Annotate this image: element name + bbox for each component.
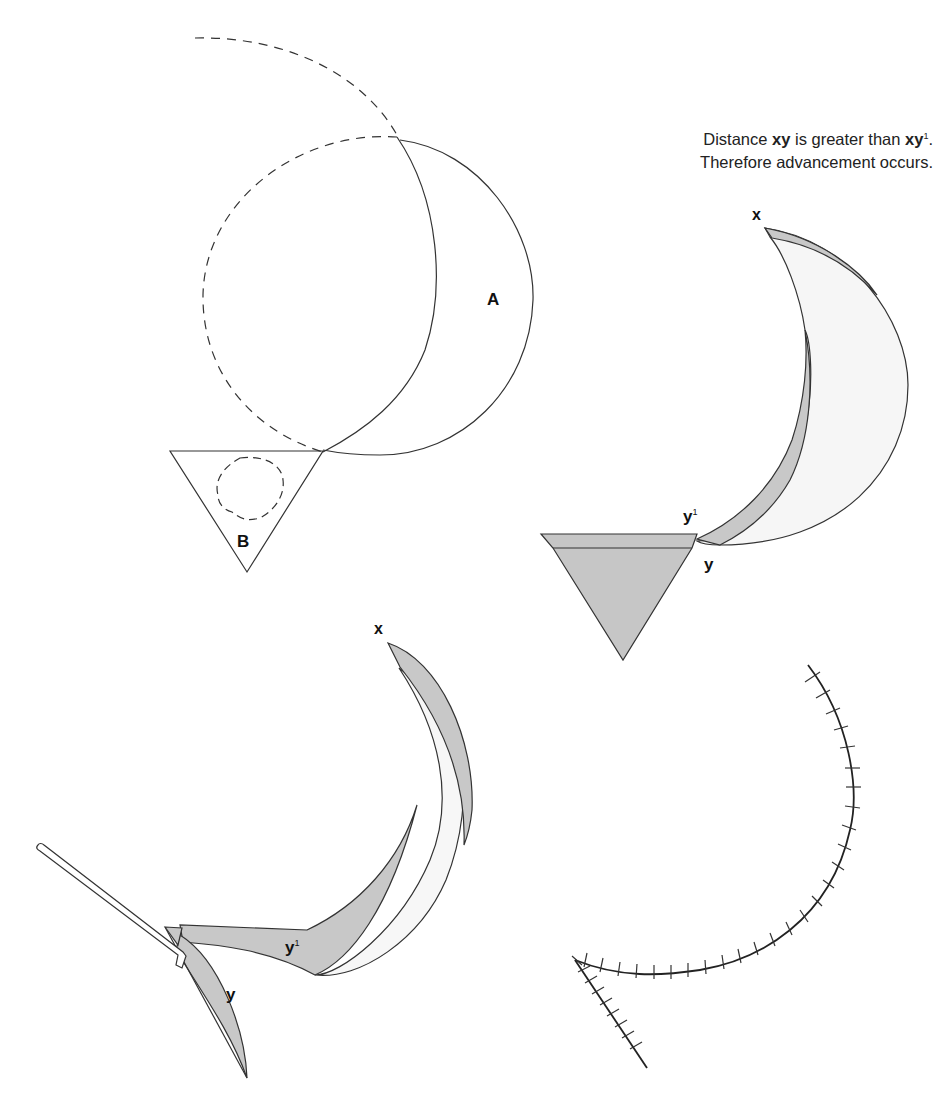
defect-label-b: B (237, 532, 249, 551)
y-label-panel2: y (704, 555, 714, 574)
caption-line-1: Distance xy is greater than xy1. (700, 125, 933, 151)
panel-4-sutured-closure (572, 665, 861, 1068)
skin-hook (37, 844, 186, 969)
panel-2-flap-rotation (541, 228, 908, 660)
caption-line-2: Therefore advancement occurs. (700, 151, 933, 174)
flap-outer-edge (323, 140, 533, 455)
suture-line-arc (575, 665, 854, 974)
x-label-panel3: x (374, 620, 383, 637)
panel-3-flap-advancement (37, 643, 472, 1078)
x-label-panel2: x (752, 206, 761, 223)
crescent-body (697, 228, 908, 545)
flap-inner-edge (323, 137, 436, 452)
shaded-triangle-defect (541, 534, 697, 660)
suture-stitches (572, 672, 861, 1049)
lesion-outline-dashed (217, 457, 283, 519)
y1-label-panel2: y1 (683, 507, 697, 526)
explanation-caption: Distance xy is greater than xy1. Therefo… (700, 125, 933, 174)
flap-label-a: A (487, 290, 499, 309)
y-label-panel3: y (226, 985, 236, 1004)
defect-triangle (170, 451, 323, 572)
rotation-arc-dashed (195, 38, 397, 135)
original-circle-dashed (203, 137, 397, 452)
advanced-shaded-lower-tip (176, 935, 247, 1078)
panel-1-flap-design (170, 38, 533, 572)
